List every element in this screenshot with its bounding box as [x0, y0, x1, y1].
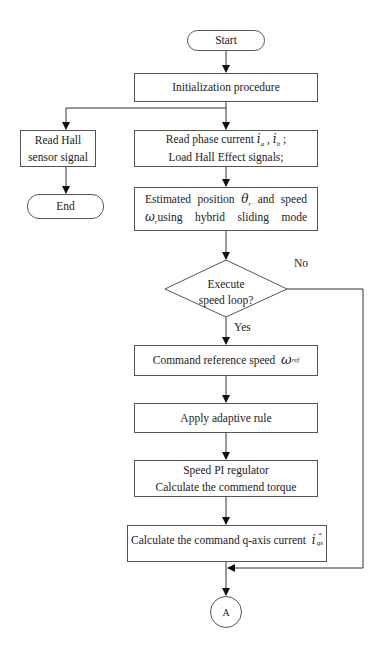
adaptive-box: Apply adaptive rule: [134, 403, 318, 433]
adaptive-label: Apply adaptive rule: [180, 410, 271, 427]
estimate-line2: ωrusing hybrid sliding mode: [135, 209, 317, 227]
start-label: Start: [215, 32, 237, 49]
no-label: No: [294, 257, 308, 269]
omega-ref-sub: ref: [292, 355, 300, 365]
word: speed: [281, 193, 307, 205]
read-phase-box: Read phase current ia , ib ; Load Hall E…: [134, 130, 318, 167]
word: and: [258, 193, 275, 205]
theta-r: θr: [241, 193, 251, 205]
estimate-box: Estimated position θr and speed ωrusing …: [134, 187, 318, 231]
read-phase-prefix: Read phase current: [166, 133, 254, 145]
separator: ,: [264, 133, 273, 145]
i-qs-star: i*qs: [312, 532, 323, 549]
read-phase-suffix: ;: [280, 133, 286, 145]
word: hybrid: [195, 211, 225, 223]
decision-line2: speed loop?: [185, 292, 267, 308]
word: Estimated: [145, 193, 191, 205]
connector-a: A: [210, 596, 242, 628]
qs-sub: qs: [317, 540, 323, 547]
theta-sub: r: [248, 200, 251, 208]
read-hall-line2: sensor signal: [28, 149, 88, 166]
init-box: Initialization procedure: [134, 73, 318, 102]
command-ref-label: Command reference speed: [153, 352, 276, 369]
pi-line1: Speed PI regulator: [183, 462, 269, 479]
q-axis-label: Calculate the command q-axis current: [131, 532, 306, 549]
decision-text: Execute speed loop?: [185, 276, 267, 308]
omega-symbol: ω: [145, 210, 155, 224]
decision-line1: Execute: [185, 276, 267, 292]
read-hall-box: Read Hall sensor signal: [20, 130, 96, 167]
command-ref-box: Command reference speed ωref: [134, 345, 318, 376]
star-sup: *: [317, 532, 323, 539]
q-axis-box: Calculate the command q-axis current i*q…: [127, 525, 327, 562]
yes-label: Yes: [234, 321, 251, 333]
word: sliding: [238, 211, 269, 223]
word: mode: [281, 211, 307, 223]
end-terminal: End: [27, 194, 104, 219]
omega-ref-symbol: ω: [281, 351, 292, 370]
estimate-line1: Estimated position θr and speed: [135, 191, 317, 209]
pi-line2: Calculate the commend torque: [156, 479, 297, 496]
read-phase-line1: Read phase current ia , ib ;: [166, 131, 286, 149]
word: using: [158, 211, 183, 223]
connector-a-label: A: [222, 607, 229, 618]
word: position: [198, 193, 235, 205]
omega-r: ωrusing: [145, 211, 182, 223]
read-hall-line1: Read Hall: [35, 132, 81, 149]
init-label: Initialization procedure: [172, 79, 280, 96]
pi-box: Speed PI regulator Calculate the commend…: [134, 460, 318, 497]
end-label: End: [56, 198, 75, 215]
read-phase-line2: Load Hall Effect signals;: [168, 149, 283, 166]
start-terminal: Start: [187, 30, 265, 51]
i-symbol: i: [312, 532, 316, 549]
